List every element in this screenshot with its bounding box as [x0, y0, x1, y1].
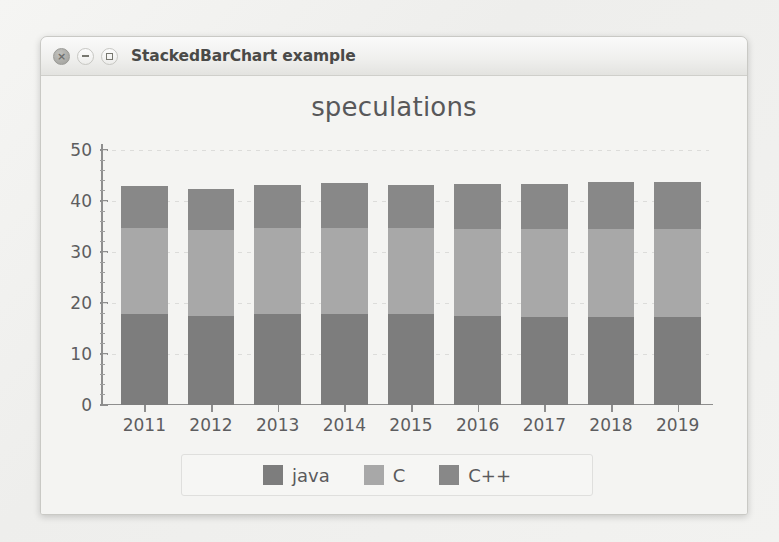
bar-2018 [588, 182, 635, 405]
legend-swatch-icon [364, 465, 384, 485]
y-axis-label: 20 [70, 293, 92, 313]
x-axis-tick [478, 405, 480, 412]
window-client-area: speculations 01020304050 201120122013201… [41, 76, 747, 514]
legend-item-c[interactable]: C [364, 465, 406, 486]
bar-segment-java [388, 314, 435, 405]
bar-segment-c [454, 229, 501, 317]
bar-2013 [254, 185, 301, 405]
y-axis-minor-tick [100, 394, 105, 395]
y-axis-minor-tick [100, 282, 105, 283]
y-axis-minor-tick [100, 170, 105, 171]
x-axis-label: 2019 [656, 415, 699, 435]
x-axis-label: 2013 [256, 415, 299, 435]
bar-segment-cpp [188, 189, 235, 230]
x-axis-label: 2015 [389, 415, 432, 435]
maximize-icon[interactable] [101, 48, 118, 65]
y-axis-label: 40 [70, 191, 92, 211]
bar-2014 [321, 183, 368, 405]
bar-2011 [121, 186, 168, 405]
y-axis-minor-tick [100, 160, 105, 161]
y-axis-minor-tick [100, 221, 105, 222]
desktop-background: × StackedBarChart example speculations 0… [0, 0, 779, 542]
y-axis-minor-tick [100, 211, 105, 212]
y-axis-minor-tick [100, 364, 105, 365]
bar-segment-cpp [254, 185, 301, 228]
bar-segment-java [654, 317, 701, 405]
application-window: × StackedBarChart example speculations 0… [40, 36, 748, 515]
y-axis-label: 50 [70, 140, 92, 160]
legend-item-cpp[interactable]: C++ [439, 465, 511, 486]
minimize-icon[interactable] [77, 48, 94, 65]
bar-2012 [188, 189, 235, 405]
x-axis-label: 2016 [456, 415, 499, 435]
bar-segment-c [654, 229, 701, 317]
y-axis-minor-tick [100, 374, 105, 375]
legend-label: C [393, 465, 406, 486]
x-axis-tick [611, 405, 613, 412]
bar-segment-cpp [521, 184, 568, 229]
chart-legend: javaCC++ [181, 454, 593, 496]
y-axis-minor-tick [100, 272, 105, 273]
chart-plot-area: 01020304050 2011201220132014201520162017… [101, 150, 709, 405]
chart-title: speculations [41, 92, 747, 122]
x-axis-tick [678, 405, 680, 412]
bar-segment-java [254, 314, 301, 405]
legend-item-java[interactable]: java [263, 465, 330, 486]
bar-2019 [654, 182, 701, 405]
gridline [103, 150, 709, 151]
bar-segment-java [521, 317, 568, 405]
y-axis-minor-tick [100, 292, 105, 293]
y-axis-minor-tick [100, 190, 105, 191]
y-axis-minor-tick [100, 313, 105, 314]
bar-segment-c [388, 228, 435, 314]
bar-segment-cpp [321, 183, 368, 227]
y-axis-label: 10 [70, 344, 92, 364]
y-axis-minor-tick [100, 262, 105, 263]
window-titlebar[interactable]: × StackedBarChart example [41, 37, 747, 76]
bar-segment-java [121, 314, 168, 405]
bar-segment-cpp [121, 186, 168, 228]
bar-segment-c [254, 228, 301, 314]
bar-segment-java [588, 317, 635, 405]
bar-2016 [454, 184, 501, 405]
bar-segment-cpp [654, 182, 701, 229]
y-axis-line [101, 144, 103, 406]
bar-segment-cpp [388, 185, 435, 228]
bar-segment-c [188, 230, 235, 316]
x-axis-label: 2014 [323, 415, 366, 435]
y-axis-minor-tick [100, 323, 105, 324]
x-axis-tick [211, 405, 213, 412]
y-axis-label: 30 [70, 242, 92, 262]
window-title: StackedBarChart example [131, 47, 356, 65]
legend-label: C++ [468, 465, 511, 486]
y-axis-label: 0 [81, 395, 92, 415]
legend-swatch-icon [263, 465, 283, 485]
x-axis-tick [278, 405, 280, 412]
bar-segment-c [121, 228, 168, 314]
x-axis-label: 2017 [523, 415, 566, 435]
legend-swatch-icon [439, 465, 459, 485]
y-axis-minor-tick [100, 343, 105, 344]
y-axis-minor-tick [100, 180, 105, 181]
y-axis-minor-tick [100, 384, 105, 385]
y-axis-minor-tick [100, 241, 105, 242]
bar-segment-c [521, 229, 568, 317]
legend-label: java [292, 465, 330, 486]
bar-2015 [388, 185, 435, 405]
x-axis-label: 2012 [189, 415, 232, 435]
x-axis-tick [144, 405, 146, 412]
x-axis-label: 2011 [123, 415, 166, 435]
bar-segment-cpp [454, 184, 501, 228]
x-axis-tick [411, 405, 413, 412]
x-axis-label: 2018 [589, 415, 632, 435]
bar-segment-c [321, 228, 368, 315]
bar-segment-java [454, 316, 501, 405]
y-axis-minor-tick [100, 333, 105, 334]
x-axis-tick [544, 405, 546, 412]
bar-segment-java [188, 316, 235, 405]
y-axis-minor-tick [100, 231, 105, 232]
bar-2017 [521, 184, 568, 405]
close-icon[interactable]: × [53, 48, 70, 65]
bar-segment-java [321, 314, 368, 405]
bar-segment-cpp [588, 182, 635, 229]
